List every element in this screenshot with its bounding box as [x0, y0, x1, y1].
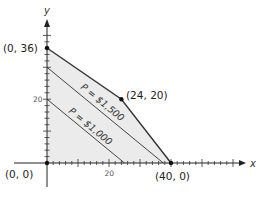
x-axis-label: x	[249, 158, 256, 169]
point-0-36	[45, 46, 49, 50]
y-axis-label: y	[43, 5, 51, 16]
point-40-0	[169, 161, 173, 165]
x-axis-arrow-icon	[239, 160, 246, 166]
label-origin: (0, 0)	[5, 168, 33, 180]
point-24-20	[119, 97, 123, 101]
label-24-20: (24, 20)	[126, 89, 168, 101]
point-origin	[45, 161, 49, 165]
label-0-36: (0, 36)	[3, 42, 38, 54]
y-axis-arrow-icon	[44, 19, 50, 27]
linear-programming-chart: x 20 y 20	[0, 0, 264, 197]
x-tick-label-20: 20	[105, 169, 115, 178]
label-40-0: (40, 0)	[155, 170, 190, 182]
y-tick-label-20: 20	[33, 95, 43, 104]
